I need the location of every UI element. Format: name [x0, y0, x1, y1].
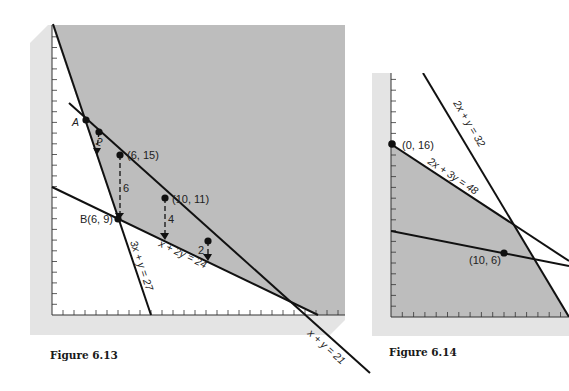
label-10-6: (10, 6): [469, 254, 501, 266]
point-14-7: [204, 237, 211, 244]
label-dist-6: 6: [123, 182, 129, 194]
figure-6-14: (0, 16) (10, 6) 2x + y = 32 2x + 3y = 48…: [372, 73, 569, 358]
figure-6-13: A (6, 15) (10, 11) B(6, 9) 2 6 4 2 3x + …: [30, 24, 370, 373]
point-10-6: [500, 249, 507, 256]
label-10-11: (10, 11): [172, 193, 209, 205]
label-A: A: [71, 116, 79, 128]
point-B: [114, 215, 121, 222]
figure-canvas: A (6, 15) (10, 11) B(6, 9) 2 6 4 2 3x + …: [0, 0, 569, 391]
label-6-15: (6, 15): [127, 149, 159, 161]
label-dist-4: 4: [168, 213, 174, 225]
label-0-16: (0, 16): [402, 139, 434, 151]
point-0-16: [388, 140, 396, 148]
figure-caption: Figure 6.13: [50, 349, 118, 361]
point-10-11: [161, 194, 168, 201]
point-6-15: [116, 151, 123, 158]
point-A: [82, 116, 89, 123]
figure-caption: Figure 6.14: [389, 346, 457, 358]
label-B: B(6, 9): [80, 213, 113, 225]
